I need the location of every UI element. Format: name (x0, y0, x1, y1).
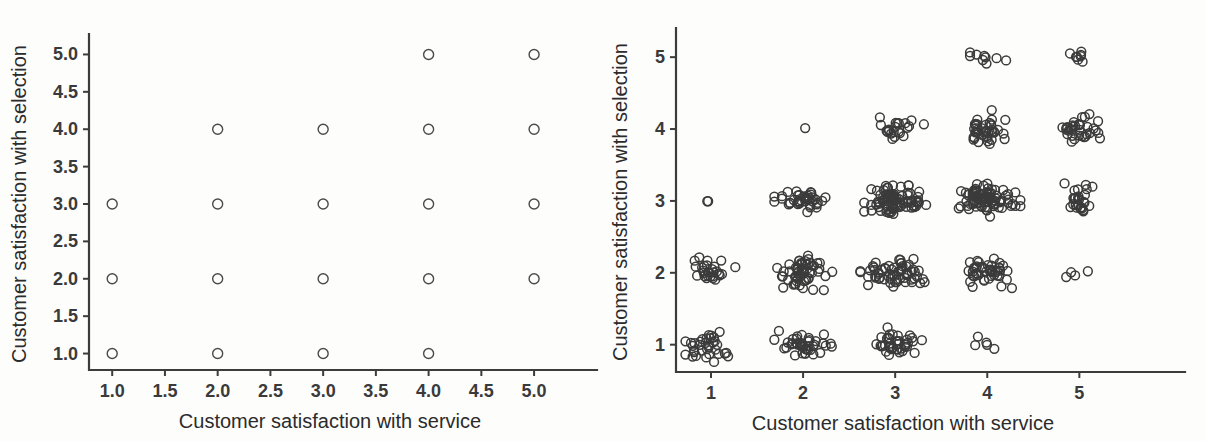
scatter-point (918, 336, 927, 345)
y-tick-label: 3.5 (53, 157, 78, 177)
scatter-point (318, 124, 328, 134)
scatter-point (213, 199, 223, 209)
x-tick-label: 4 (982, 383, 992, 403)
scatter-point (424, 274, 434, 284)
y-tick-label: 4.5 (53, 82, 78, 102)
x-tick-label: 3 (890, 383, 900, 403)
scatter-point (809, 285, 818, 294)
scatter-point (318, 349, 328, 359)
scatter-point (819, 286, 828, 295)
scatter-point (424, 124, 434, 134)
axis-spines-right (676, 28, 1185, 372)
scatter-point (213, 274, 223, 284)
scatter-point (107, 199, 117, 209)
y-tick-label: 4.0 (53, 119, 78, 139)
scatter-point (1060, 179, 1069, 188)
x-axis-title-right: Customer satisfaction with service (752, 412, 1054, 434)
y-tick-label: 4 (655, 119, 665, 139)
scatter-point (867, 185, 876, 194)
x-tick-label: 1 (706, 383, 716, 403)
scatter-plot-right: 1234512345 Customer satisfaction with se… (603, 0, 1206, 441)
scatter-point (968, 282, 977, 291)
axes-left: 1.01.52.02.53.03.54.04.55.01.01.52.02.53… (53, 34, 597, 401)
scatter-point (424, 49, 434, 59)
scatter-point (213, 124, 223, 134)
x-tick-label: 3.0 (311, 381, 336, 401)
scatter-point (770, 335, 779, 344)
x-tick-label: 3.5 (363, 381, 388, 401)
scatter-point (529, 274, 539, 284)
scatter-point (992, 54, 1001, 63)
scatter-point (731, 263, 740, 272)
y-tick-label: 5 (655, 47, 665, 67)
scatter-point (775, 326, 784, 335)
x-tick-label: 1.0 (100, 381, 125, 401)
scatter-point (910, 349, 919, 358)
y-tick-label: 1.0 (53, 344, 78, 364)
scatter-point (107, 349, 117, 359)
scatter-point (424, 199, 434, 209)
axes-right: 1234512345 (655, 28, 1185, 403)
y-tick-label: 3.0 (53, 194, 78, 214)
scatter-point (318, 274, 328, 284)
scatter-point (864, 281, 873, 290)
scatter-panel-jittered: 1234512345 Customer satisfaction with se… (603, 0, 1206, 441)
scatter-point (529, 49, 539, 59)
tick-marks-right (670, 57, 1079, 378)
scatter-point (1001, 115, 1010, 124)
scatter-point (801, 124, 810, 133)
tick-labels-left: 1.01.52.02.53.03.54.04.55.01.01.52.02.53… (53, 44, 547, 401)
scatter-point (920, 120, 929, 129)
x-tick-label: 5 (1074, 383, 1084, 403)
y-axis-title-right: Customer satisfaction with selection (609, 43, 631, 361)
y-tick-label: 1.5 (53, 306, 78, 326)
y-axis-title-left: Customer satisfaction with selection (8, 45, 30, 363)
scatter-point (529, 199, 539, 209)
tick-marks-left (83, 54, 534, 376)
scatter-point (1008, 284, 1017, 293)
plot-markers-left (107, 49, 539, 358)
x-tick-label: 5.0 (522, 381, 547, 401)
scatter-point (213, 349, 223, 359)
scatter-plot-left: 1.01.52.02.53.03.54.04.55.01.01.52.02.53… (0, 0, 603, 441)
y-tick-label: 5.0 (53, 44, 78, 64)
scatter-panel-unjittered: 1.01.52.02.53.03.54.04.55.01.01.52.02.53… (0, 0, 603, 441)
scatter-point (821, 272, 830, 281)
scatter-point (915, 187, 924, 196)
axis-spines-left (89, 34, 597, 370)
scatter-point (820, 330, 829, 339)
x-tick-label: 2.5 (258, 381, 283, 401)
scatter-point (893, 331, 902, 340)
y-tick-label: 1 (655, 335, 665, 355)
scatter-point (424, 349, 434, 359)
scatter-point (909, 255, 918, 264)
y-tick-label: 2 (655, 263, 665, 283)
y-tick-label: 2.5 (53, 231, 78, 251)
x-axis-title-left: Customer satisfaction with service (179, 410, 481, 432)
scatter-point (779, 283, 788, 292)
x-tick-label: 4.0 (416, 381, 441, 401)
y-tick-label: 3 (655, 191, 665, 211)
scatter-point (318, 199, 328, 209)
scatter-point (1000, 135, 1009, 144)
scatter-point (971, 341, 980, 350)
x-tick-label: 4.5 (469, 381, 494, 401)
scatter-point (1083, 267, 1092, 276)
scatter-point (987, 106, 996, 115)
scatter-point (997, 282, 1006, 291)
scatter-point (715, 327, 724, 336)
x-tick-label: 2.0 (205, 381, 230, 401)
scatter-point (1096, 134, 1105, 143)
scatter-point (529, 124, 539, 134)
plot-markers-right (681, 47, 1104, 366)
scatter-point (974, 332, 983, 341)
scatter-point (107, 274, 117, 284)
x-tick-label: 2 (798, 383, 808, 403)
figure-canvas: 1.01.52.02.53.03.54.04.55.01.01.52.02.53… (0, 0, 1206, 441)
x-tick-label: 1.5 (152, 381, 177, 401)
y-tick-label: 2.0 (53, 269, 78, 289)
scatter-point (1002, 56, 1011, 65)
